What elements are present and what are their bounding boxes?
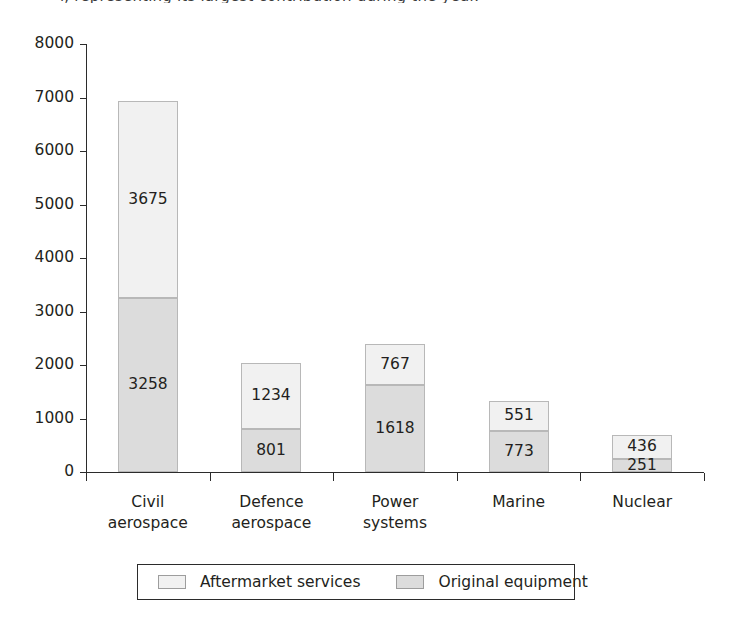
x-axis-category-label: Nuclear [572, 492, 712, 513]
x-axis-line [86, 472, 704, 473]
bar-stack[interactable]: 436251 [612, 435, 672, 472]
clipped-title-text: l, representing its largest contribution… [60, 0, 680, 3]
y-axis-tick [80, 419, 87, 420]
bar-value-label: 1234 [251, 388, 290, 404]
x-axis-category-label: Civilaerospace [78, 492, 218, 534]
x-axis-tick [86, 473, 87, 481]
legend-item-original-equipment: Original equipment [396, 573, 587, 591]
y-axis-tick-label: 1000 [14, 411, 74, 427]
y-axis-tick [80, 312, 87, 313]
x-axis-category-label: Marine [449, 492, 589, 513]
legend-item-aftermarket-services: Aftermarket services [158, 573, 360, 591]
category-label-line: systems [325, 513, 465, 534]
bar-value-label: 251 [627, 458, 657, 474]
bar-segment-original-equipment[interactable]: 773 [489, 431, 549, 472]
bar-stack[interactable]: 1234801 [241, 363, 301, 472]
y-axis-tick-label: 2000 [14, 357, 74, 373]
y-axis-tick-label: 0 [14, 464, 74, 480]
bar-segment-aftermarket-services[interactable]: 551 [489, 401, 549, 430]
bar-stack[interactable]: 551773 [489, 401, 549, 472]
legend-label-aftermarket: Aftermarket services [200, 573, 360, 591]
x-axis-tick [580, 473, 581, 481]
x-axis-tick [704, 473, 705, 481]
y-axis-tick-label: 6000 [14, 143, 74, 159]
x-axis-tick [210, 473, 211, 481]
y-axis-tick [80, 98, 87, 99]
category-label-line: Nuclear [572, 492, 712, 513]
y-axis-tick [80, 205, 87, 206]
x-axis-category-label: Powersystems [325, 492, 465, 534]
category-label-line: aerospace [201, 513, 341, 534]
bar-segment-original-equipment[interactable]: 3258 [118, 298, 178, 472]
bar-stack[interactable]: 7671618 [365, 344, 425, 472]
bar-value-label: 3258 [128, 377, 167, 393]
legend-swatch-icon-aftermarket [158, 575, 186, 589]
bar-segment-aftermarket-services[interactable]: 1234 [241, 363, 301, 429]
bar-value-label: 1618 [375, 421, 414, 437]
legend-label-original-equipment: Original equipment [438, 573, 587, 591]
bar-segment-original-equipment[interactable]: 251 [612, 459, 672, 472]
category-label-line: Marine [449, 492, 589, 513]
x-axis-tick [333, 473, 334, 481]
stacked-bar-chart: l, representing its largest contribution… [0, 0, 730, 629]
bar-segment-original-equipment[interactable]: 801 [241, 429, 301, 472]
y-axis-tick [80, 151, 87, 152]
y-axis-tick-label: 8000 [14, 36, 74, 52]
y-axis-tick-label: 3000 [14, 304, 74, 320]
bar-segment-original-equipment[interactable]: 1618 [365, 385, 425, 472]
category-label-line: aerospace [78, 513, 218, 534]
bar-value-label: 767 [380, 357, 410, 373]
bar-value-label: 801 [256, 443, 286, 459]
y-axis-tick [80, 44, 87, 45]
bar-value-label: 436 [627, 439, 657, 455]
bar-value-label: 773 [504, 444, 534, 460]
legend-swatch-icon-original-equipment [396, 575, 424, 589]
y-axis-tick [80, 365, 87, 366]
bar-value-label: 551 [504, 408, 534, 424]
x-axis-category-label: Defenceaerospace [201, 492, 341, 534]
bar-segment-aftermarket-services[interactable]: 3675 [118, 101, 178, 298]
y-axis-tick-label: 5000 [14, 197, 74, 213]
y-axis-tick [80, 258, 87, 259]
category-label-line: Power [325, 492, 465, 513]
category-label-line: Civil [78, 492, 218, 513]
x-axis-tick [457, 473, 458, 481]
bar-segment-aftermarket-services[interactable]: 767 [365, 344, 425, 385]
y-axis-tick-label: 7000 [14, 90, 74, 106]
category-label-line: Defence [201, 492, 341, 513]
bar-value-label: 3675 [128, 192, 167, 208]
y-axis-tick-label: 4000 [14, 250, 74, 266]
bar-stack[interactable]: 36753258 [118, 101, 178, 472]
legend: Aftermarket services Original equipment [137, 564, 575, 600]
